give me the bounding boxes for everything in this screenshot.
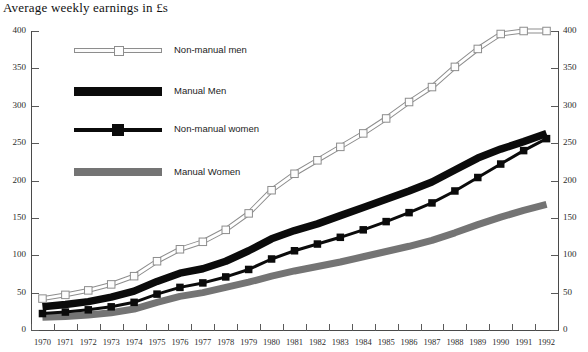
filled-square-marker-icon	[130, 299, 138, 307]
open-square-marker-icon	[520, 27, 528, 35]
open-square-marker-icon	[543, 27, 551, 35]
open-square-marker-icon	[107, 281, 115, 289]
open-square-marker-icon	[359, 130, 367, 138]
open-square-marker-icon	[245, 210, 253, 218]
filled-square-marker-icon	[222, 273, 230, 281]
open-square-marker-icon	[153, 257, 161, 265]
filled-square-marker-icon	[405, 209, 413, 217]
series-line	[42, 204, 546, 317]
filled-square-marker-icon	[107, 303, 115, 311]
open-square-marker-icon	[39, 295, 47, 303]
filled-square-marker-icon	[497, 160, 505, 168]
filled-square-marker-icon	[451, 187, 459, 195]
open-square-marker-icon	[405, 98, 413, 106]
filled-square-marker-icon	[543, 135, 551, 143]
open-square-marker-icon	[130, 272, 138, 280]
filled-square-marker-icon	[314, 240, 322, 248]
filled-square-marker-icon	[176, 284, 184, 292]
series-layer	[0, 0, 588, 352]
filled-square-marker-icon	[268, 255, 276, 262]
open-square-marker-icon	[268, 186, 276, 194]
filled-square-marker-icon	[291, 247, 299, 255]
open-square-marker-icon	[62, 291, 69, 299]
open-square-marker-icon	[497, 30, 505, 37]
filled-square-marker-icon	[62, 308, 69, 316]
filled-square-marker-icon	[245, 266, 253, 274]
filled-square-marker-icon	[153, 290, 161, 298]
open-square-marker-icon	[382, 115, 390, 123]
filled-square-marker-icon	[359, 226, 367, 234]
open-square-marker-icon	[451, 63, 459, 71]
filled-square-marker-icon	[85, 306, 93, 314]
filled-square-marker-icon	[39, 310, 47, 318]
open-square-marker-icon	[314, 157, 322, 165]
filled-square-marker-icon	[520, 147, 528, 155]
open-square-marker-icon	[474, 45, 482, 53]
filled-square-marker-icon	[474, 174, 482, 182]
filled-square-marker-icon	[382, 218, 390, 226]
open-square-marker-icon	[176, 246, 184, 254]
open-square-marker-icon	[291, 170, 299, 178]
open-square-marker-icon	[337, 143, 345, 151]
filled-square-marker-icon	[337, 234, 345, 242]
open-square-marker-icon	[199, 238, 207, 246]
open-square-marker-icon	[428, 83, 436, 91]
filled-square-marker-icon	[199, 279, 207, 287]
open-square-marker-icon	[85, 287, 93, 295]
earnings-line-chart: Average weekly earnings in £s 0050501001…	[0, 0, 588, 352]
series-manual-women	[42, 204, 546, 317]
series-non-manual-men	[39, 27, 551, 302]
filled-square-marker-icon	[428, 199, 436, 207]
open-square-marker-icon	[222, 226, 230, 234]
